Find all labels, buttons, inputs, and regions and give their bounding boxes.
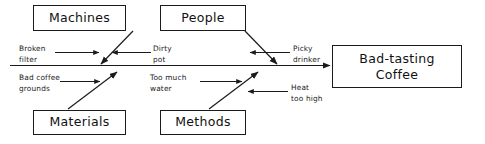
category-label-people: People — [181, 11, 224, 25]
cause-label-picky-drinker: Picky drinker — [293, 44, 333, 65]
bone-machines — [101, 31, 133, 64]
cause-label-broken-filter: Broken filter — [19, 44, 57, 65]
category-label-methods: Methods — [175, 115, 231, 129]
effect-box-bad-tasting-coffee[interactable]: Bad-tasting Coffee — [332, 45, 462, 88]
category-box-materials[interactable]: Materials — [33, 110, 126, 135]
category-box-people[interactable]: People — [160, 5, 246, 31]
effect-label-line1: Bad-tasting — [359, 51, 434, 67]
category-box-methods[interactable]: Methods — [160, 110, 246, 135]
category-box-machines[interactable]: Machines — [33, 5, 126, 31]
cause-label-too-much-water: Too much water — [150, 73, 198, 94]
cause-label-bad-coffee-grounds: Bad coffee grounds — [19, 73, 67, 94]
bone-materials — [68, 72, 117, 109]
cause-label-heat-too-high: Heat too high — [291, 83, 333, 104]
effect-label-line2: Coffee — [376, 67, 418, 83]
bone-people — [245, 31, 277, 64]
fishbone-diagram: Machines People Materials Methods Bad-ta… — [0, 0, 485, 144]
bone-methods — [209, 72, 258, 109]
cause-label-dirty-pot: Dirty pot — [153, 44, 187, 65]
category-label-machines: Machines — [49, 11, 110, 25]
category-label-materials: Materials — [50, 115, 110, 129]
